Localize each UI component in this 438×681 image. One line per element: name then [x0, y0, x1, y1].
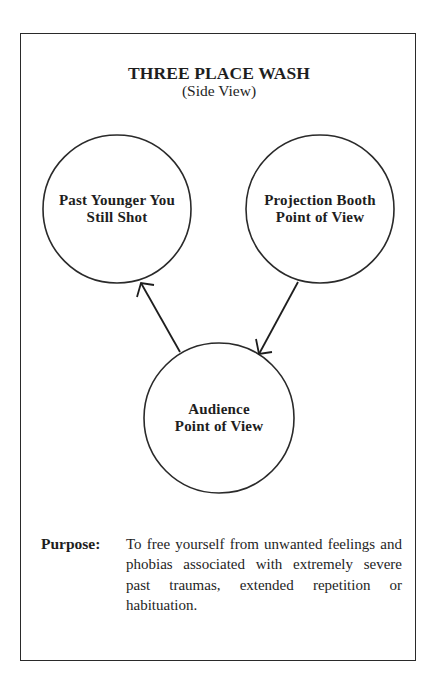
node-booth-label-line2: Point of View — [245, 209, 395, 226]
node-past-label-line2: Still Shot — [42, 209, 192, 226]
node-audience-label: Audience Point of View — [144, 401, 294, 435]
node-audience-label-line2: Point of View — [144, 418, 294, 435]
node-audience-label-line1: Audience — [144, 401, 294, 418]
arrow-booth-to-audience — [256, 282, 298, 354]
node-booth-label-line1: Projection Booth — [245, 192, 395, 209]
arrow-audience-to-past — [137, 283, 180, 352]
purpose-label: Purpose: — [41, 534, 100, 554]
node-past-label: Past Younger You Still Shot — [42, 192, 192, 226]
node-past-label-line1: Past Younger You — [42, 192, 192, 209]
purpose-text: To free yourself from unwanted feelings … — [126, 534, 402, 615]
node-booth-label: Projection Booth Point of View — [245, 192, 395, 226]
